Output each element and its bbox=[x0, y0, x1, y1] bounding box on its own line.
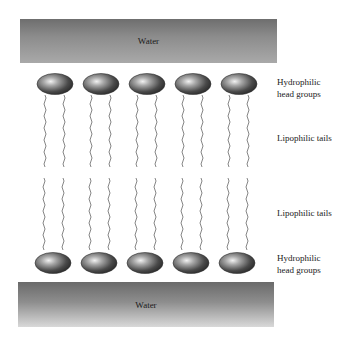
water-layer-bottom: Water bbox=[18, 282, 274, 327]
label-top-tails: Lipophilic tails bbox=[277, 132, 332, 144]
top-tails bbox=[44, 95, 249, 167]
top-head-groups bbox=[37, 74, 257, 95]
head-group bbox=[129, 74, 165, 95]
label-bottom-heads: Hydrophilic head groups bbox=[277, 252, 321, 276]
head-group bbox=[83, 74, 119, 95]
label-top-heads: Hydrophilic head groups bbox=[277, 76, 321, 100]
head-group bbox=[37, 74, 73, 95]
label-bottom-tails: Lipophilic tails bbox=[277, 207, 332, 219]
head-group bbox=[175, 74, 211, 95]
head-group bbox=[219, 253, 255, 274]
bottom-tails bbox=[43, 178, 248, 250]
water-label-bottom: Water bbox=[135, 300, 156, 310]
head-group bbox=[221, 74, 257, 95]
bottom-head-groups bbox=[35, 253, 255, 274]
head-group bbox=[81, 253, 117, 274]
head-group bbox=[173, 253, 209, 274]
head-group bbox=[35, 253, 71, 274]
head-group bbox=[127, 253, 163, 274]
